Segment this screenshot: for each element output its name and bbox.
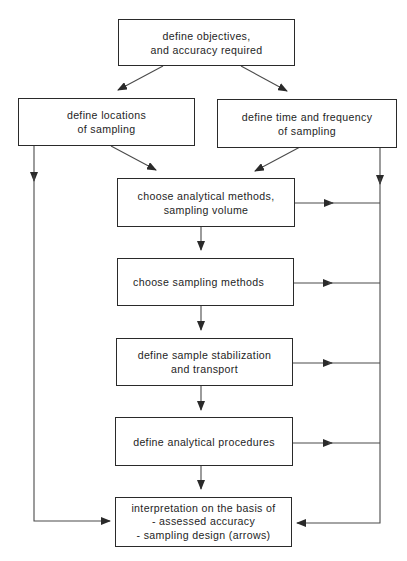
right-bus-line	[297, 178, 380, 523]
node-label-line: define time and frequency	[242, 110, 373, 124]
node-define-analytical-procedures: define analytical procedures	[115, 417, 293, 466]
left-bus-line	[34, 175, 110, 521]
node-interpretation: interpretation on the basis of - assesse…	[115, 497, 292, 547]
node-label-line: - assessed accuracy	[152, 515, 255, 529]
node-label-line: define sample stabilization	[138, 348, 272, 362]
node-label-line: and accuracy required	[150, 43, 262, 57]
node-define-time-frequency: define time and frequency of sampling	[217, 99, 397, 148]
node-label-line: choose analytical methods,	[138, 189, 275, 203]
node-define-sample-stabilization: define sample stabilization and transpor…	[116, 338, 293, 386]
node-label-line: sampling volume	[164, 203, 249, 217]
arrow-objectives-to-time	[241, 66, 287, 91]
arrow-time-to-analytical-methods	[255, 147, 300, 171]
node-label-line: of sampling	[278, 124, 336, 138]
node-label-line: and transport	[171, 362, 238, 376]
arrow-locations-to-analytical-methods	[111, 146, 156, 170]
node-define-objectives: define objectives, and accuracy required	[118, 19, 295, 66]
node-choose-sampling-methods: choose sampling methods	[117, 258, 294, 306]
node-label-line: - sampling design (arrows)	[137, 529, 271, 543]
arrow-objectives-to-locations	[118, 66, 163, 90]
node-label-line: define objectives,	[162, 29, 250, 43]
node-label-line: choose sampling methods	[133, 275, 264, 289]
sampling-design-flowchart: define objectives, and accuracy required…	[0, 0, 407, 561]
node-choose-analytical-methods: choose analytical methods, sampling volu…	[117, 178, 295, 227]
node-define-locations: define locations of sampling	[18, 98, 195, 146]
node-label-line: define locations	[67, 108, 146, 122]
node-label-line: define analytical procedures	[133, 435, 275, 449]
node-label-line: interpretation on the basis of	[131, 502, 275, 516]
node-label-line: of sampling	[77, 122, 135, 136]
